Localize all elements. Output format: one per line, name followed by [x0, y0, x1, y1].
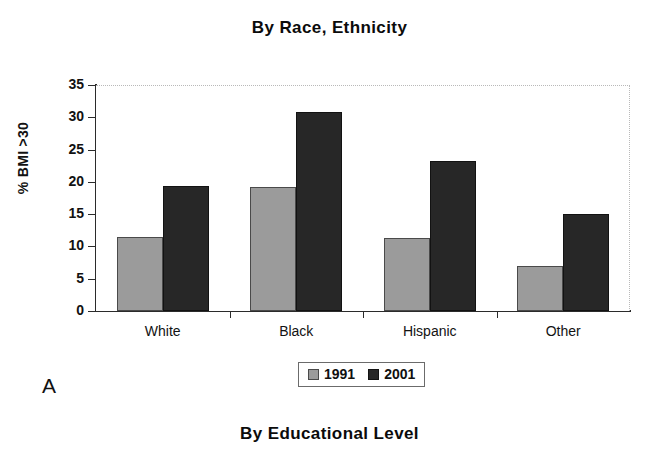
x-axis-label-black: Black [226, 323, 366, 339]
chart-title: By Race, Ethnicity [0, 18, 659, 38]
bar-black-2001 [296, 112, 342, 311]
y-axis-tick [88, 214, 95, 215]
legend-entry-1991: 1991 [308, 366, 355, 382]
bar-hispanic-2001 [430, 161, 476, 311]
y-axis-tick-label-wrap: 15 [44, 214, 84, 215]
y-axis-tick-label-wrap: 35 [44, 85, 84, 86]
y-axis-title: % BMI >30 [15, 83, 31, 233]
y-axis-tick-label-wrap: 10 [44, 246, 84, 247]
y-axis-tick-label-wrap: 5 [44, 279, 84, 280]
panel-letter: A [42, 374, 56, 398]
y-axis-tick [88, 246, 95, 247]
legend-label-2001: 2001 [384, 366, 415, 382]
legend-swatch-2001 [368, 369, 379, 380]
y-axis-tick-label-wrap: 30 [44, 117, 84, 118]
plot-area [96, 85, 630, 311]
legend-swatch-1991 [308, 369, 319, 380]
bar-black-1991 [250, 187, 296, 311]
y-axis-tick-label-wrap: 0 [44, 311, 84, 312]
y-axis-tick [88, 85, 95, 86]
x-axis-tick [363, 311, 364, 318]
bar-other-2001 [563, 214, 609, 312]
y-axis-tick-label: 10 [54, 237, 84, 253]
x-axis-label-other: Other [493, 323, 633, 339]
y-axis-tick-label: 15 [54, 205, 84, 221]
x-axis-label-hispanic: Hispanic [360, 323, 500, 339]
x-axis-label-white: White [93, 323, 233, 339]
bar-white-1991 [117, 237, 163, 311]
y-axis-tick-label: 20 [54, 173, 84, 189]
bar-hispanic-1991 [384, 238, 430, 311]
chart-legend: 19912001 [298, 362, 425, 387]
y-axis-tick-label: 5 [54, 270, 84, 286]
figure-panel-a: By Race, Ethnicity % BMI >30 35302520151… [0, 0, 659, 458]
legend-entry-2001: 2001 [368, 366, 415, 382]
y-axis-tick-label: 35 [54, 76, 84, 92]
y-axis-tick [88, 117, 95, 118]
bar-white-2001 [163, 186, 209, 311]
legend-label-1991: 1991 [324, 366, 355, 382]
y-axis-tick-label-wrap: 20 [44, 182, 84, 183]
y-axis-tick-label: 30 [54, 108, 84, 124]
bar-other-1991 [517, 266, 563, 311]
y-axis-tick [88, 182, 95, 183]
next-panel-title: By Educational Level [0, 424, 659, 444]
y-axis-tick [88, 150, 95, 151]
y-axis-tick [88, 279, 95, 280]
y-axis-tick-label: 0 [54, 302, 84, 318]
x-axis-tick [230, 311, 231, 318]
y-axis-tick-label: 25 [54, 141, 84, 157]
x-axis-tick [497, 311, 498, 318]
y-axis-tick-label-wrap: 25 [44, 150, 84, 151]
y-axis-tick [88, 311, 95, 312]
